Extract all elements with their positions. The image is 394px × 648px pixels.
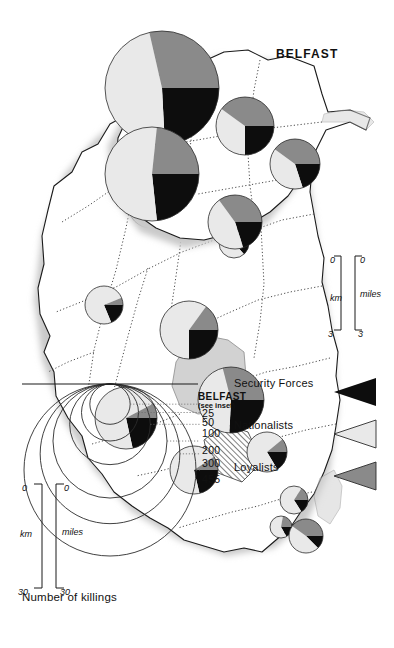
pie-antrim-small (280, 486, 308, 514)
legend-label-nationalists: Nationalists (234, 420, 293, 431)
legend-label-security-forces: Security Forces (234, 378, 313, 389)
inset-scale-km-unit: km (330, 294, 342, 303)
pie-newtownabbey (289, 519, 323, 553)
inset-scale-bar (312, 250, 374, 360)
inset-title: BELFAST (276, 48, 338, 60)
legend-label-loyalists: Loyalists (234, 462, 279, 473)
size-legend-ring-300 (40, 384, 180, 524)
size-legend-value-25: 25 (202, 408, 214, 419)
size-legend-ring-455 (24, 384, 196, 556)
pie-south-border (85, 286, 123, 324)
size-legend-ring-50 (81, 384, 138, 441)
size-legend-value-300: 300 (202, 458, 220, 469)
inset-scale-km-min: 0 (330, 256, 335, 265)
inset-scale-miles-max: 3 (358, 330, 363, 339)
inset-pie-north (270, 139, 320, 189)
size-legend-value-100: 100 (202, 428, 220, 439)
inset-scale-miles-unit: miles (360, 290, 381, 299)
map-figure: BELFAST (see inset) 0 30 miles 0 30 km B… (0, 0, 394, 648)
size-legend-value-455: 455 (202, 474, 220, 485)
pie-mid-east (160, 301, 218, 359)
inset-scale-miles-min: 0 (360, 256, 365, 265)
legend-marker-group (312, 372, 382, 522)
belfast-inset-map (80, 26, 380, 286)
inset-pie-south (105, 127, 199, 221)
size-legend-ring-25 (90, 384, 130, 424)
size-legend-value-200: 200 (202, 445, 220, 456)
inset-pie-east (208, 195, 262, 249)
inset-scale-km-max: 3 (328, 330, 333, 339)
loyalists-wedge-icon (334, 462, 376, 490)
size-legend (14, 370, 204, 620)
nationalists-wedge-icon (334, 420, 376, 448)
security-forces-wedge-icon (334, 378, 376, 406)
size-legend-rings (24, 384, 196, 556)
inset-pie-centre (216, 97, 274, 155)
size-legend-title: Number of killings (22, 592, 117, 604)
